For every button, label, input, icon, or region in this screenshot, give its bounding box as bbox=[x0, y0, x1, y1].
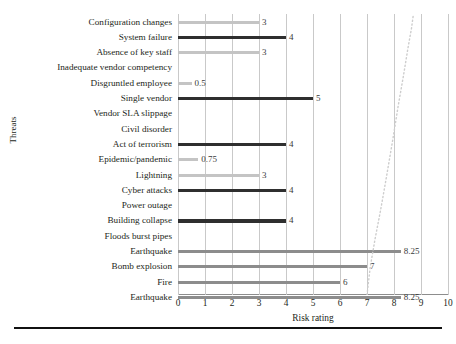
plot-area: Configuration changes3System failure4Abs… bbox=[178, 14, 448, 295]
bar-value-label: 3 bbox=[259, 45, 267, 60]
bar bbox=[178, 97, 313, 100]
bar-value-label: 0.75 bbox=[198, 152, 217, 167]
bar bbox=[178, 82, 192, 85]
footer-rule bbox=[14, 327, 442, 329]
x-tick-label: 4 bbox=[274, 298, 298, 308]
bar-category-label: Disgruntled employee bbox=[0, 76, 172, 91]
bar-row: Earthquake8.25 bbox=[0, 244, 456, 259]
bar-category-label: Absence of key staff bbox=[0, 45, 172, 60]
bar bbox=[178, 51, 259, 54]
x-tick-label: 3 bbox=[247, 298, 271, 308]
bar-row: Civil disorder bbox=[0, 122, 456, 137]
bar-row: Act of terrorism4 bbox=[0, 137, 456, 152]
bar-value-label: 4 bbox=[286, 30, 294, 45]
bar bbox=[178, 36, 286, 39]
bar-category-label: Lightning bbox=[0, 168, 172, 183]
bar-category-label: Earthquake bbox=[0, 244, 172, 259]
bar-category-label: Civil disorder bbox=[0, 122, 172, 137]
x-tick-label: 5 bbox=[301, 298, 325, 308]
x-axis-title: Risk rating bbox=[178, 313, 448, 323]
x-tick-label: 0 bbox=[166, 298, 190, 308]
risk-rating-bar-chart: Threats Configuration changes3System fai… bbox=[0, 0, 456, 344]
bar-value-label: 8.25 bbox=[401, 244, 420, 259]
bar-row: Single vendor5 bbox=[0, 91, 456, 106]
bar-value-label: 5 bbox=[313, 91, 321, 106]
bar-value-label: 6 bbox=[340, 275, 348, 290]
bar-value-label: 4 bbox=[286, 137, 294, 152]
bar-row: Lightning3 bbox=[0, 168, 456, 183]
x-tick-label: 9 bbox=[409, 298, 433, 308]
bar-category-label: Act of terrorism bbox=[0, 137, 172, 152]
bar bbox=[178, 158, 198, 161]
bar-category-label: Fire bbox=[0, 275, 172, 290]
bar bbox=[178, 189, 286, 192]
bar-category-label: Floods burst pipes bbox=[0, 229, 172, 244]
bar-value-label: 4 bbox=[286, 213, 294, 228]
x-tick-label: 7 bbox=[355, 298, 379, 308]
bar-category-label: Earthquake bbox=[0, 290, 172, 305]
bar-value-label: 4 bbox=[286, 183, 294, 198]
bar-category-label: Bomb explosion bbox=[0, 259, 172, 274]
bar-category-label: Inadequate vendor competency bbox=[0, 60, 172, 75]
x-tick-label: 10 bbox=[436, 298, 456, 308]
bar-row: Absence of key staff3 bbox=[0, 45, 456, 60]
x-tick-label: 2 bbox=[220, 298, 244, 308]
bar-row: Power outage bbox=[0, 198, 456, 213]
bar bbox=[178, 21, 259, 24]
bar-row: Floods burst pipes bbox=[0, 229, 456, 244]
bar-category-label: Power outage bbox=[0, 198, 172, 213]
bar-value-label: 7 bbox=[367, 259, 375, 274]
bar-category-label: Vendor SLA slippage bbox=[0, 106, 172, 121]
bar-category-label: Epidemic/pandemic bbox=[0, 152, 172, 167]
bar bbox=[178, 143, 286, 146]
bar-value-label: 0.5 bbox=[192, 76, 206, 91]
bar-row: Cyber attacks4 bbox=[0, 183, 456, 198]
bar-row: Fire6 bbox=[0, 275, 456, 290]
bar bbox=[178, 174, 259, 177]
bar-category-label: Cyber attacks bbox=[0, 183, 172, 198]
x-tick-label: 8 bbox=[382, 298, 406, 308]
bar bbox=[178, 281, 340, 284]
bar-value-label: 3 bbox=[259, 168, 267, 183]
bar-row: Vendor SLA slippage bbox=[0, 106, 456, 121]
bar bbox=[178, 219, 286, 222]
bar bbox=[178, 265, 367, 268]
bar-row: System failure4 bbox=[0, 30, 456, 45]
bar-row: Disgruntled employee0.5 bbox=[0, 76, 456, 91]
bar-row: Epidemic/pandemic0.75 bbox=[0, 152, 456, 167]
x-tick-label: 6 bbox=[328, 298, 352, 308]
bar-category-label: Configuration changes bbox=[0, 15, 172, 30]
x-tick-label: 1 bbox=[193, 298, 217, 308]
bar-category-label: Building collapse bbox=[0, 213, 172, 228]
bar-row: Inadequate vendor competency bbox=[0, 60, 456, 75]
bar-row: Building collapse4 bbox=[0, 213, 456, 228]
bar-value-label: 3 bbox=[259, 15, 267, 30]
bar-category-label: System failure bbox=[0, 30, 172, 45]
bar-row: Configuration changes3 bbox=[0, 15, 456, 30]
bar bbox=[178, 250, 401, 253]
bar-row: Bomb explosion7 bbox=[0, 259, 456, 274]
bar-category-label: Single vendor bbox=[0, 91, 172, 106]
